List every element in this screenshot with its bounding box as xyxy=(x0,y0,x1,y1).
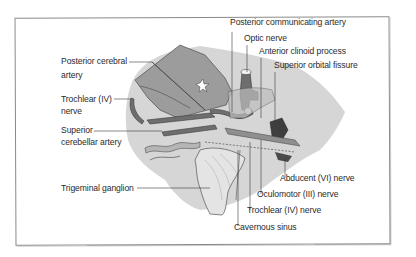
label-line: Trigeminal ganglion xyxy=(61,182,134,195)
label-trochlear-nerve-bottom: Trochlear (IV) nerve xyxy=(247,204,321,217)
label-line: Posterior cerebral xyxy=(61,55,127,68)
label-superior-orbital-fissure: Superior orbital fissure xyxy=(274,59,358,72)
label-superior-cerebellar-artery: Superior cerebellar artery xyxy=(61,124,121,149)
optic-nerve-end xyxy=(241,70,251,75)
label-trigeminal-ganglion: Trigeminal ganglion xyxy=(61,182,134,195)
label-trochlear-nerve-left: Trochlear (IV) nerve xyxy=(61,93,112,118)
label-optic-nerve: Optic nerve xyxy=(244,32,287,45)
label-line: nerve xyxy=(61,105,112,118)
label-posterior-communicating-artery: Posterior communicating artery xyxy=(230,16,346,29)
label-line: artery xyxy=(61,69,127,82)
label-posterior-cerebral-artery: Posterior cerebral artery xyxy=(61,55,127,82)
label-line: cerebellar artery xyxy=(61,136,121,149)
label-abducent-nerve: Abducent (VI) nerve xyxy=(280,172,355,185)
label-cavernous-sinus: Cavernous sinus xyxy=(234,221,297,234)
label-oculomotor-nerve: Oculomotor (III) nerve xyxy=(257,188,338,201)
label-anterior-clinoid-process: Anterior clinoid process xyxy=(259,45,346,58)
